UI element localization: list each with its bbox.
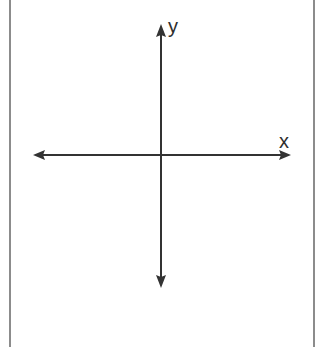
x-axis-label: x bbox=[279, 131, 289, 151]
y-axis-label: y bbox=[168, 16, 178, 36]
coordinate-plane bbox=[0, 0, 319, 347]
